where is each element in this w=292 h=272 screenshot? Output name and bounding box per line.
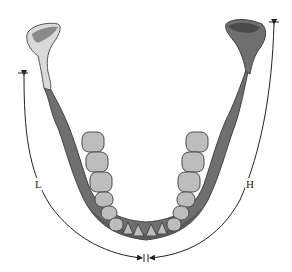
mandible-diagram — [0, 0, 292, 272]
right-condyle — [226, 20, 266, 75]
label-l: L — [34, 178, 43, 190]
midline-marker — [144, 254, 148, 262]
label-h: H — [245, 178, 255, 190]
left-condyle — [27, 23, 60, 90]
mandible-body — [44, 70, 248, 240]
